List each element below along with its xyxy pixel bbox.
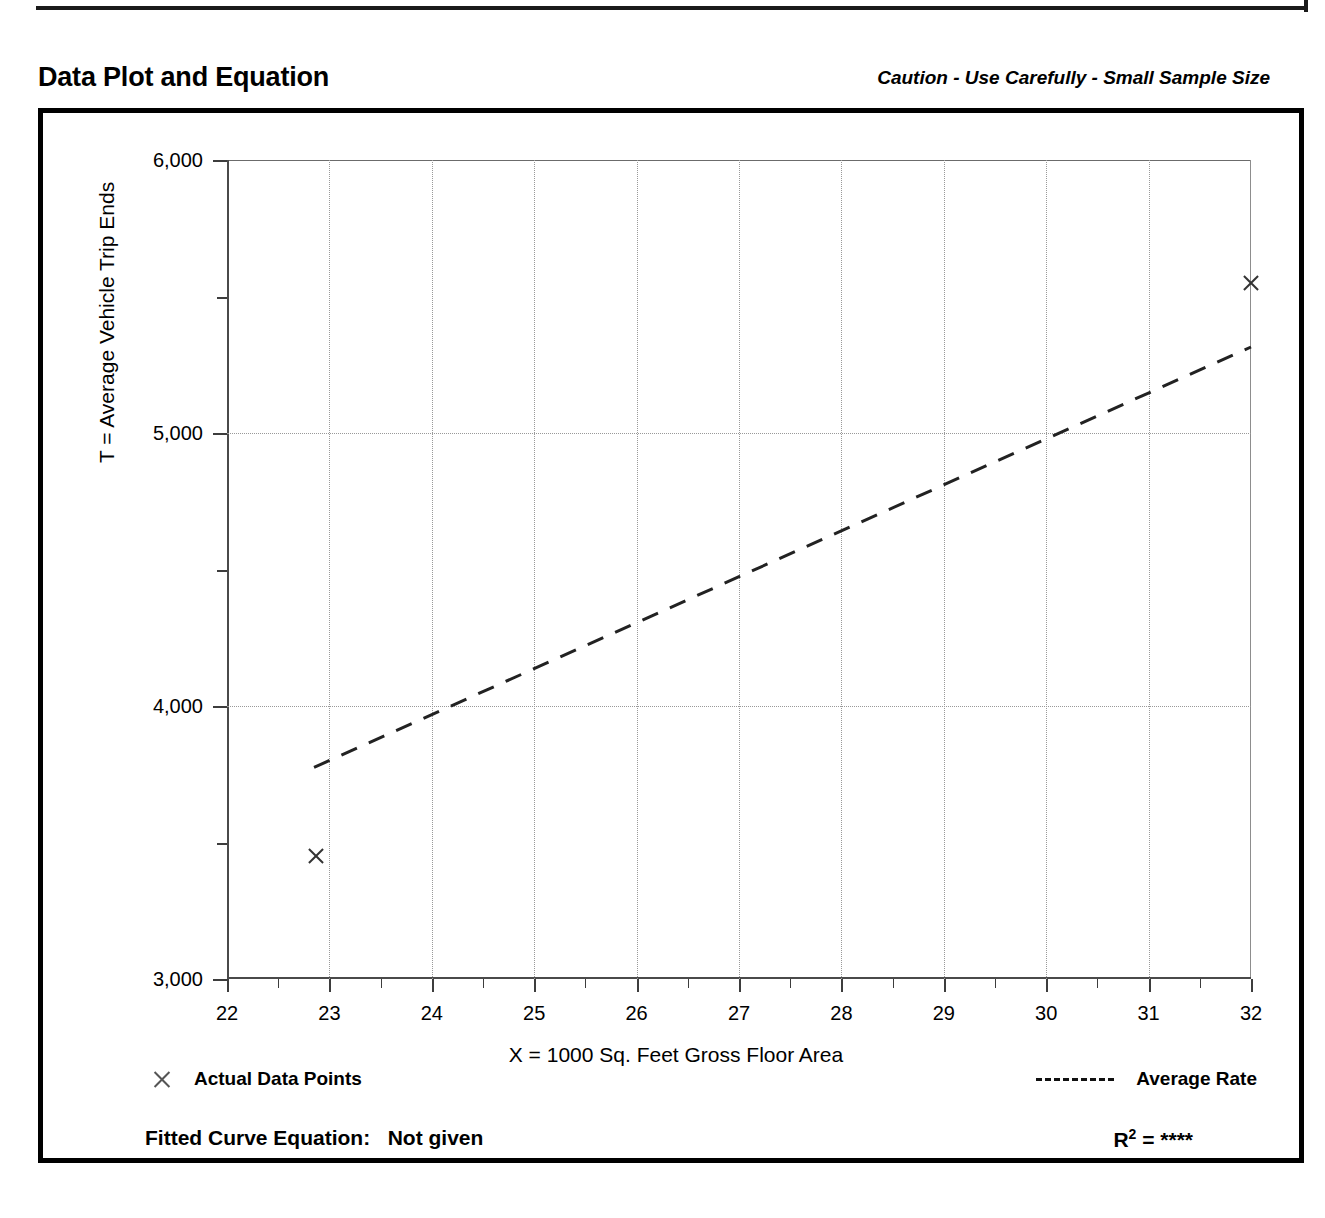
x-tick-label: 26 bbox=[625, 1002, 647, 1025]
x-tick-minor bbox=[995, 979, 996, 988]
legend-label-average-rate: Average Rate bbox=[1136, 1068, 1257, 1090]
gridline-vertical bbox=[739, 160, 741, 979]
x-tick-major bbox=[227, 979, 229, 992]
x-tick-minor bbox=[585, 979, 586, 988]
data-point-marker bbox=[306, 846, 326, 866]
legend-label-data-points: Actual Data Points bbox=[194, 1068, 362, 1090]
x-tick-minor bbox=[278, 979, 279, 988]
x-tick-label: 29 bbox=[933, 1002, 955, 1025]
gridline-vertical bbox=[841, 160, 843, 979]
x-tick-major bbox=[1149, 979, 1151, 992]
y-tick-minor bbox=[217, 297, 227, 299]
y-tick-label: 3,000 bbox=[153, 968, 203, 991]
x-tick-minor bbox=[381, 979, 382, 988]
gridline-vertical bbox=[944, 160, 946, 979]
chart-legend: Actual Data Points Average Rate bbox=[43, 1068, 1309, 1110]
y-tick-minor bbox=[217, 570, 227, 572]
caution-note: Caution - Use Carefully - Small Sample S… bbox=[877, 67, 1270, 89]
y-axis-line bbox=[227, 160, 229, 979]
trend-line bbox=[314, 347, 1251, 767]
chart-area: T = Average Vehicle Trip Ends 2223242526… bbox=[43, 113, 1309, 1168]
page-top-rule-corner bbox=[1304, 0, 1308, 12]
y-tick-major bbox=[213, 160, 227, 162]
gridline-horizontal bbox=[227, 706, 1251, 708]
y-tick-minor bbox=[217, 843, 227, 845]
y-tick-label: 4,000 bbox=[153, 695, 203, 718]
r-squared: R2 = **** bbox=[1113, 1126, 1193, 1152]
x-tick-minor bbox=[1097, 979, 1098, 988]
x-tick-minor bbox=[483, 979, 484, 988]
x-tick-label: 30 bbox=[1035, 1002, 1057, 1025]
x-tick-major bbox=[637, 979, 639, 992]
gridline-vertical bbox=[534, 160, 536, 979]
x-tick-label: 25 bbox=[523, 1002, 545, 1025]
x-tick-label: 24 bbox=[421, 1002, 443, 1025]
equation-value: Not given bbox=[388, 1126, 484, 1149]
r-squared-value: **** bbox=[1160, 1128, 1193, 1151]
x-tick-major bbox=[432, 979, 434, 992]
x-tick-minor bbox=[688, 979, 689, 988]
x-tick-label: 23 bbox=[318, 1002, 340, 1025]
x-tick-major bbox=[944, 979, 946, 992]
r-squared-equals: = bbox=[1142, 1128, 1154, 1151]
gridline-vertical bbox=[1046, 160, 1048, 979]
data-point-marker bbox=[1241, 273, 1261, 293]
dashed-line-icon bbox=[1036, 1078, 1114, 1081]
x-tick-minor bbox=[790, 979, 791, 988]
gridline-vertical bbox=[637, 160, 639, 979]
plot-region: 22232425262728293031323,0004,0005,0006,0… bbox=[227, 160, 1251, 979]
chart-panel: T = Average Vehicle Trip Ends 2223242526… bbox=[38, 108, 1304, 1163]
x-tick-label: 22 bbox=[216, 1002, 238, 1025]
page-title: Data Plot and Equation bbox=[38, 62, 329, 93]
header-row: Data Plot and Equation Caution - Use Car… bbox=[38, 62, 1270, 96]
y-tick-label: 5,000 bbox=[153, 422, 203, 445]
x-tick-major bbox=[1046, 979, 1048, 992]
y-axis-title: T = Average Vehicle Trip Ends bbox=[95, 182, 119, 463]
r-squared-exponent: 2 bbox=[1129, 1126, 1137, 1142]
gridline-vertical bbox=[329, 160, 331, 979]
x-tick-label: 32 bbox=[1240, 1002, 1262, 1025]
gridline-horizontal bbox=[227, 433, 1251, 435]
r-squared-symbol: R bbox=[1113, 1128, 1128, 1151]
gridline-vertical bbox=[1149, 160, 1151, 979]
fitted-curve-equation: Fitted Curve Equation: Not given bbox=[145, 1126, 483, 1150]
x-tick-label: 27 bbox=[728, 1002, 750, 1025]
y-tick-major bbox=[213, 433, 227, 435]
x-tick-minor bbox=[893, 979, 894, 988]
x-tick-major bbox=[841, 979, 843, 992]
x-axis-title: X = 1000 Sq. Feet Gross Floor Area bbox=[43, 1043, 1309, 1067]
x-marker-icon bbox=[151, 1069, 172, 1090]
x-tick-major bbox=[329, 979, 331, 992]
x-tick-major bbox=[1251, 979, 1253, 992]
y-tick-major bbox=[213, 706, 227, 708]
x-tick-label: 28 bbox=[830, 1002, 852, 1025]
y-tick-label: 6,000 bbox=[153, 149, 203, 172]
x-tick-label: 31 bbox=[1137, 1002, 1159, 1025]
x-tick-major bbox=[534, 979, 536, 992]
equation-label: Fitted Curve Equation: bbox=[145, 1126, 370, 1149]
page-top-rule bbox=[36, 6, 1308, 10]
x-tick-minor bbox=[1200, 979, 1201, 988]
y-tick-major bbox=[213, 979, 227, 981]
equation-row: Fitted Curve Equation: Not given R2 = **… bbox=[43, 1126, 1309, 1166]
legend-entry-average-rate: Average Rate bbox=[1036, 1068, 1257, 1090]
x-tick-major bbox=[739, 979, 741, 992]
legend-entry-data-points: Actual Data Points bbox=[151, 1068, 362, 1090]
gridline-vertical bbox=[432, 160, 434, 979]
